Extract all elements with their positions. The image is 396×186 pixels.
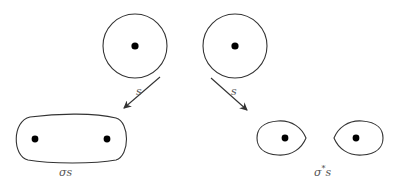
arrow-line: [124, 77, 160, 108]
bottom-right-eggs: σ*s: [257, 121, 383, 179]
caption-sigma-star-s: σ*s: [314, 164, 332, 179]
marked-point: [353, 135, 360, 142]
bottom-left-oval: σs: [16, 114, 126, 179]
marked-point: [282, 135, 289, 142]
egg-left-boundary: [257, 121, 306, 155]
arrow-label: s: [136, 85, 142, 98]
top-left-disk: [103, 14, 167, 78]
caption-sigma-s: σs: [59, 166, 73, 179]
top-right-disk: [203, 14, 267, 78]
left-arrow: s: [124, 77, 160, 108]
arrow-label: s: [231, 85, 237, 98]
marked-point: [231, 42, 238, 49]
marked-point: [32, 136, 39, 143]
arrow-line: [211, 78, 247, 110]
marked-point: [131, 42, 138, 49]
marked-point: [104, 136, 111, 143]
right-arrow: s: [211, 78, 247, 110]
diagram-canvas: s s σs σ*s: [0, 0, 396, 186]
